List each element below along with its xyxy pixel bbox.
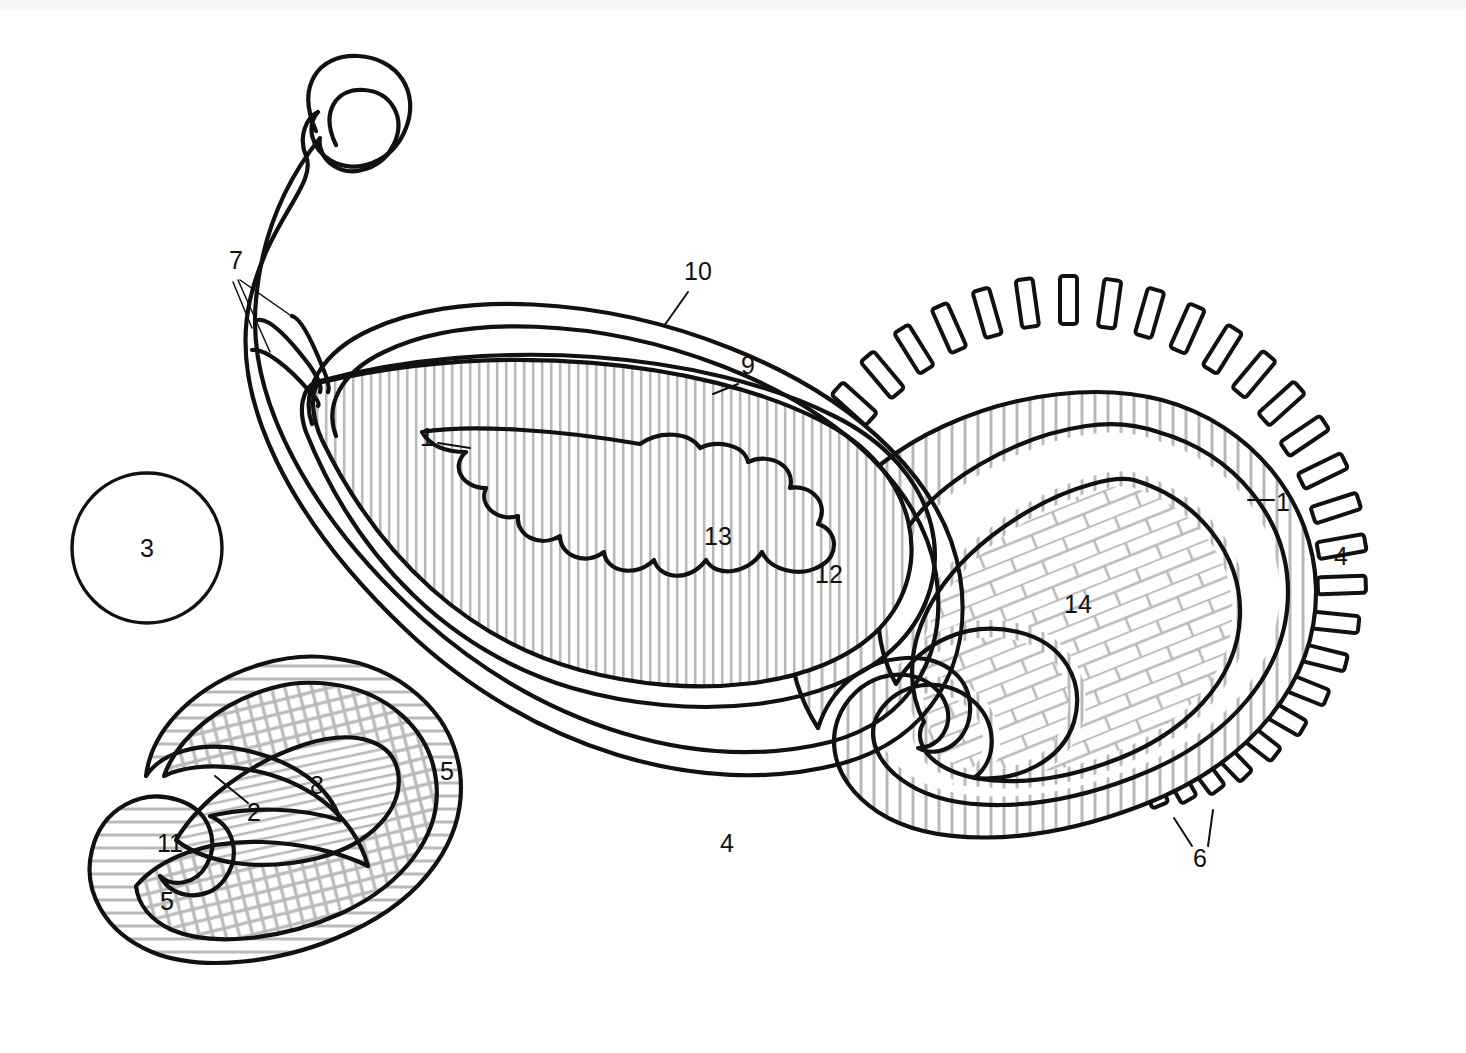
label-7: 7 [229, 246, 243, 274]
leader-10 [664, 292, 688, 326]
figure-canvas: 7 10 9 1 13 12 3 1 4 14 5 8 2 11 4 6 5 [0, 0, 1466, 1053]
leader-6a [1174, 818, 1192, 846]
label-10: 10 [684, 257, 712, 285]
label-11: 11 [157, 829, 183, 857]
label-1b: 1 [1276, 488, 1290, 516]
label-5b: 5 [160, 887, 174, 915]
label-2: 2 [247, 798, 261, 826]
label-4a: 4 [1334, 542, 1348, 570]
paisley-diagram: 7 10 9 1 13 12 3 1 4 14 5 8 2 11 4 6 5 [0, 0, 1466, 1053]
leader-6b [1208, 810, 1213, 846]
label-13: 13 [704, 522, 732, 550]
label-6: 6 [1193, 844, 1207, 872]
label-1a: 1 [420, 423, 434, 451]
left-paisley [90, 657, 461, 963]
label-5a: 5 [440, 757, 454, 785]
label-8: 8 [310, 771, 324, 799]
label-4b: 4 [720, 829, 734, 857]
label-9: 9 [741, 351, 755, 379]
label-12: 12 [815, 560, 843, 588]
label-14: 14 [1064, 590, 1092, 618]
label-3: 3 [140, 534, 154, 562]
